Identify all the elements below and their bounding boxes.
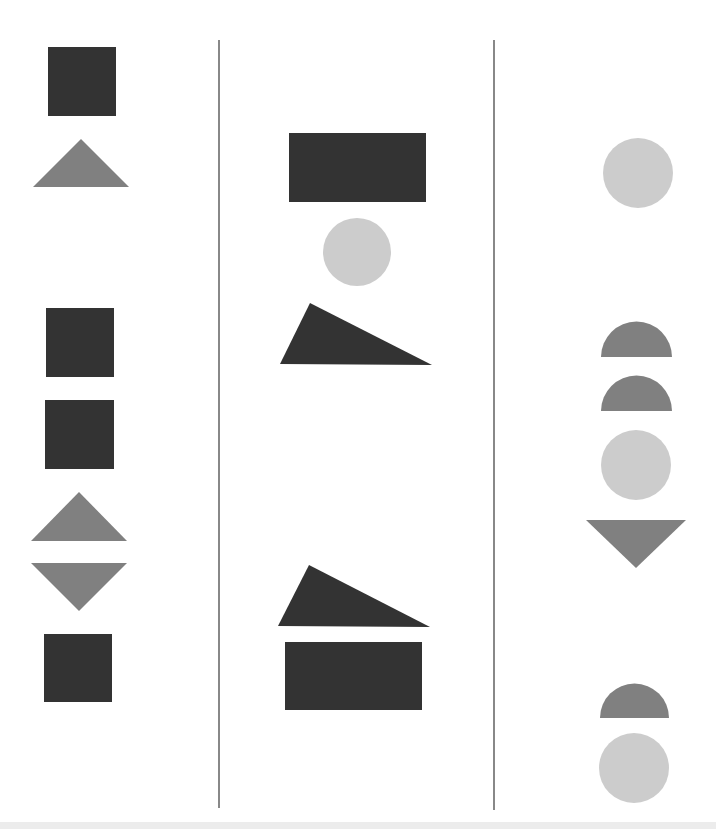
half-circle-shape — [601, 375, 672, 411]
square-shape — [46, 308, 114, 377]
half-circle-shape — [600, 684, 669, 719]
circle-shape — [603, 138, 673, 208]
rectangle-shape — [289, 133, 426, 202]
column-1 — [31, 47, 129, 702]
circle-shape — [599, 733, 669, 803]
right-triangle-shape — [280, 303, 432, 365]
bottom-band — [0, 822, 716, 829]
triangle-up-shape — [33, 139, 129, 187]
shape-diagram — [0, 0, 716, 829]
circle-shape — [601, 430, 671, 500]
triangle-down-shape — [31, 563, 127, 611]
column-3 — [586, 138, 686, 803]
triangle-up-shape — [31, 492, 127, 541]
rectangle-shape — [285, 642, 422, 710]
square-shape — [48, 47, 116, 116]
right-triangle-shape — [278, 565, 430, 627]
column-2 — [278, 133, 432, 710]
half-circle-shape — [601, 322, 672, 358]
triangle-down-shape — [586, 520, 686, 568]
circle-shape — [323, 218, 391, 286]
square-shape — [45, 400, 114, 469]
square-shape — [44, 634, 112, 702]
shape-columns — [31, 47, 686, 803]
